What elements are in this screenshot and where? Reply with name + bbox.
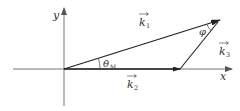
svg-text:k: k: [139, 16, 146, 29]
svg-text:2: 2: [134, 84, 138, 92]
svg-text:θ: θ: [103, 58, 109, 69]
y-axis-label: y: [52, 9, 60, 22]
theta-arc: [98, 58, 100, 69]
vector-diagram: y x k 1 k 2 k 3 θ M φ: [0, 0, 240, 111]
svg-text:k: k: [127, 78, 134, 91]
label-k2: k 2: [127, 75, 138, 93]
label-theta-m: θ M: [103, 58, 116, 70]
svg-text:M: M: [110, 63, 116, 70]
phi-arc: [207, 24, 212, 31]
svg-text:1: 1: [146, 22, 150, 30]
x-axis-label: x: [220, 70, 227, 83]
svg-text:3: 3: [226, 51, 230, 59]
label-k3: k 3: [219, 42, 230, 60]
label-phi: φ: [199, 26, 206, 37]
svg-text:k: k: [219, 45, 226, 58]
label-k1: k 1: [139, 13, 150, 31]
